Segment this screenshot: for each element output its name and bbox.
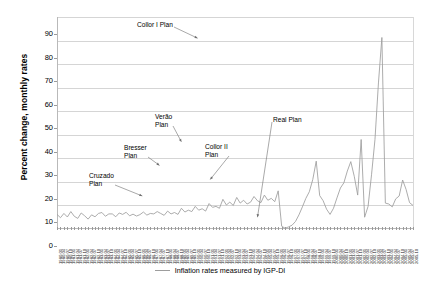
inflation-line-series	[57, 17, 414, 229]
x-axis-tick-mark	[105, 227, 106, 230]
x-axis-tick-mark	[95, 227, 96, 230]
x-axis-tick-mark	[292, 227, 293, 230]
x-axis-tick-mark	[365, 227, 366, 230]
annotation-collor-i-plan: Collor I Plan	[137, 21, 173, 29]
x-axis-tick-mark	[389, 227, 390, 230]
x-axis-tick-mark	[226, 227, 227, 230]
x-axis-tick-mark	[392, 227, 393, 230]
x-axis-tick-mark	[71, 227, 72, 230]
series-container	[57, 17, 414, 229]
x-axis-tick-mark	[92, 227, 93, 230]
x-axis-tick-mark	[154, 227, 155, 230]
y-axis-tick-label: 50	[45, 124, 53, 132]
x-axis-tick-mark	[399, 227, 400, 230]
x-axis-tick-mark	[344, 227, 345, 230]
x-axis-tick-mark	[230, 227, 231, 230]
x-axis-tick-mark	[85, 227, 86, 230]
x-axis-tick-mark	[64, 227, 65, 230]
x-axis-tick-mark	[140, 227, 141, 230]
x-axis-tick-mark	[347, 227, 348, 230]
x-axis-tick-mark	[119, 227, 120, 230]
x-axis-tick-mark	[261, 227, 262, 230]
x-axis-tick-mark	[112, 227, 113, 230]
x-axis-tick-mark	[337, 227, 338, 230]
y-axis-tick-label: 30	[45, 172, 53, 180]
x-axis-tick-mark	[361, 227, 362, 230]
y-axis-tick-container: 0102030405060708090	[0, 17, 57, 229]
annotation-collor-ii-plan: Collor II Plan	[205, 143, 228, 158]
annotation-real-plan: Real Plan	[273, 116, 302, 124]
annotation-verão-plan: Verão Plan	[155, 113, 172, 128]
x-axis-tick-mark	[354, 227, 355, 230]
x-axis-tick-mark	[123, 227, 124, 230]
x-axis-tick-mark	[358, 227, 359, 230]
series-path-igp-di	[57, 37, 413, 228]
x-axis-tick-mark	[202, 227, 203, 230]
x-axis-tick-mark	[378, 227, 379, 230]
x-axis-tick-mark	[410, 227, 411, 230]
x-axis-tick-mark	[406, 227, 407, 230]
x-axis-tick-mark	[264, 227, 265, 230]
y-axis-tick-label: 80	[45, 54, 53, 62]
x-axis-tick-mark	[175, 227, 176, 230]
x-axis-tick-mark	[178, 227, 179, 230]
x-axis-tick-mark	[306, 227, 307, 230]
x-axis-tick-mark	[67, 227, 68, 230]
x-axis-tick-mark	[98, 227, 99, 230]
annotation-bresser-plan: Bresser Plan	[124, 144, 147, 159]
x-axis-tick-mark	[340, 227, 341, 230]
x-axis-tick-mark	[385, 227, 386, 230]
y-axis-tick-label: 0	[49, 242, 53, 250]
x-axis-tick-mark	[240, 227, 241, 230]
x-axis-tick-mark	[143, 227, 144, 230]
x-axis-tick-mark	[237, 227, 238, 230]
y-axis-tick-label: 40	[45, 148, 53, 156]
x-axis-tick-mark	[233, 227, 234, 230]
x-axis-tick-mark	[295, 227, 296, 230]
x-axis-tick-mark	[157, 227, 158, 230]
x-axis-tick-mark	[116, 227, 117, 230]
x-axis-tick-mark	[382, 227, 383, 230]
x-axis-tick-mark	[223, 227, 224, 230]
x-axis-tick-mark	[209, 227, 210, 230]
x-axis-tick-mark	[195, 227, 196, 230]
x-axis-tick-mark	[247, 227, 248, 230]
x-axis-tick-mark	[168, 227, 169, 230]
x-axis-tick-mark	[213, 227, 214, 230]
x-axis-tick-mark	[109, 227, 110, 230]
y-axis-tick-label: 10	[45, 219, 53, 227]
x-axis-tick-mark	[216, 227, 217, 230]
annotation-cruzado-plan: Cruzado Plan	[89, 172, 114, 187]
x-axis-tick-mark	[130, 227, 131, 230]
x-axis-tick-mark	[81, 227, 82, 230]
x-axis-tick-mark	[289, 227, 290, 230]
x-axis-tick-mark	[299, 227, 300, 230]
y-axis-tick-label: 90	[45, 30, 53, 38]
x-axis-tick-mark	[244, 227, 245, 230]
x-axis-tick-mark	[78, 227, 79, 230]
x-axis-tick-mark	[403, 227, 404, 230]
x-axis-tick-mark	[327, 227, 328, 230]
x-axis-tick-mark	[375, 227, 376, 230]
x-axis-tick-mark	[150, 227, 151, 230]
x-axis-tick-mark	[330, 227, 331, 230]
x-axis-tick-mark	[206, 227, 207, 230]
x-axis-tick-mark	[192, 227, 193, 230]
x-axis-tick-mark	[368, 227, 369, 230]
x-axis-tick-mark	[133, 227, 134, 230]
y-axis-tick-label: 70	[45, 77, 53, 85]
x-axis-tick-mark	[302, 227, 303, 230]
x-axis-tick-mark	[372, 227, 373, 230]
chart-legend: Inflation rates measured by IGP-DI	[0, 266, 440, 275]
x-axis-tick-mark	[60, 227, 61, 230]
x-axis-tick-mark	[185, 227, 186, 230]
x-axis-tick-container: 1980.011980.041980.071980.101981.011981.…	[57, 230, 414, 266]
legend-label-igp-di: Inflation rates measured by IGP-DI	[175, 266, 286, 275]
x-axis-tick-mark	[285, 227, 286, 230]
x-axis-tick-mark	[126, 227, 127, 230]
y-axis-tick-label: 60	[45, 101, 53, 109]
legend-swatch-igp-di	[155, 270, 170, 271]
x-axis-tick-mark	[316, 227, 317, 230]
x-axis-tick-mark	[171, 227, 172, 230]
x-axis-tick-mark	[320, 227, 321, 230]
